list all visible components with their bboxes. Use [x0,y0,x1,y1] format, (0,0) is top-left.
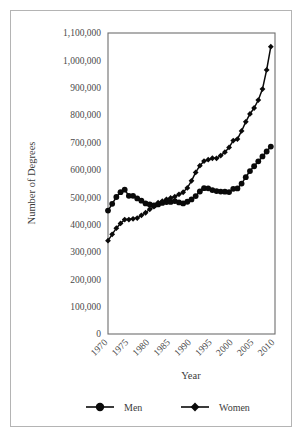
data-point-men [105,208,111,214]
legend-label-women: Women [219,402,250,413]
y-tick-label: 200,000 [70,275,101,285]
x-tick-label: 2010 [256,337,277,358]
legend-marker-women [191,403,200,412]
legend-label-men: Men [124,402,142,413]
figure-container: 0100,000200,000300,000400,000500,000600,… [10,10,292,427]
x-tick-label: 1995 [193,337,214,358]
chart-legend: Men Women [86,402,250,413]
y-tick-label: 700,000 [70,138,101,148]
x-axis-tick-labels: 197019751980198519901995200020052010 [89,337,277,358]
data-point-men [243,174,249,180]
y-axis-tick-labels: 0100,000200,000300,000400,000500,000600,… [63,28,101,339]
data-point-men [239,181,245,187]
y-tick-label: 1,000,000 [63,56,101,66]
y-tick-label: 900,000 [70,83,101,93]
legend-marker-men [96,403,104,411]
data-point-men [235,186,241,192]
data-point-men [251,163,257,169]
x-tick-label: 2000 [214,337,235,358]
x-tick-label: 1970 [89,337,110,358]
data-point-men [268,144,274,150]
y-axis-title: Number of Degrees [26,142,37,225]
data-point-men [193,193,199,199]
data-point-men [260,154,266,160]
x-axis-title: Year [181,370,201,381]
y-tick-label: 400,000 [70,220,101,230]
y-tick-label: 800,000 [70,110,101,120]
data-point-men [247,168,253,174]
line-chart: 0100,000200,000300,000400,000500,000600,… [11,11,291,426]
y-tick-label: 600,000 [70,165,101,175]
x-tick-label: 1975 [110,337,131,358]
x-tick-label: 1980 [131,337,152,358]
y-tick-label: 100,000 [70,302,101,312]
y-tick-label: 1,100,000 [63,28,101,38]
x-tick-label: 2005 [235,337,256,358]
data-point-men [255,158,261,164]
data-point-men [122,187,128,193]
data-point-men [264,149,270,155]
y-tick-label: 300,000 [70,247,101,257]
y-tick-label: 500,000 [70,193,101,203]
data-point-men [109,201,115,207]
data-point-men [113,194,119,200]
x-tick-label: 1990 [172,337,193,358]
x-tick-label: 1985 [152,337,173,358]
